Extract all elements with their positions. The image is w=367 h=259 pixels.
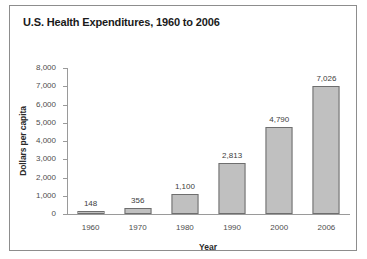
y-axis-tick (63, 159, 67, 160)
y-axis-tick (63, 178, 67, 179)
y-axis-tick-label: 5,000 (36, 119, 56, 127)
chart-figure: U.S. Health Expenditures, 1960 to 2006 0… (9, 5, 357, 251)
x-axis-tick-label: 2000 (270, 224, 288, 232)
bar (313, 86, 340, 214)
y-axis-tick (63, 196, 67, 197)
y-axis-tick-label: 7,000 (36, 82, 56, 90)
bar-value-label: 7,026 (316, 75, 336, 83)
y-axis-tick (63, 68, 67, 69)
x-axis-tick-label: 1960 (82, 224, 100, 232)
x-axis-line (67, 214, 350, 215)
bar-value-label: 1,100 (175, 183, 195, 191)
chart-title: U.S. Health Expenditures, 1960 to 2006 (23, 16, 220, 28)
y-axis-tick (63, 123, 67, 124)
y-axis-tick-label: 8,000 (36, 64, 56, 72)
bar-value-label: 2,813 (222, 152, 242, 160)
y-axis-tick (63, 214, 67, 215)
x-axis-title: Year (199, 242, 217, 252)
bar-value-label: 4,790 (269, 116, 289, 124)
y-axis-tick-label: 3,000 (36, 155, 56, 163)
y-axis-tick-label: 6,000 (36, 101, 56, 109)
x-axis-tick-label: 1980 (176, 224, 194, 232)
bar-value-label: 148 (84, 200, 97, 208)
y-axis-tick-label: 1,000 (36, 192, 56, 200)
plot-area: 01,0002,0003,0004,0005,0006,0007,0008,00… (67, 63, 356, 215)
bar (77, 211, 104, 214)
x-axis-tick-label: 1990 (223, 224, 241, 232)
y-axis-tick-label: 0 (52, 210, 56, 218)
y-axis-tick (63, 86, 67, 87)
y-axis-tick (63, 141, 67, 142)
bar-value-label: 356 (131, 197, 144, 205)
y-axis-title: Dollars per capita (18, 106, 28, 176)
x-axis-tick-label: 1970 (129, 224, 147, 232)
y-axis-line (67, 68, 68, 214)
bar (219, 163, 246, 214)
bar (124, 208, 151, 214)
bar (266, 127, 293, 214)
y-axis-tick (63, 105, 67, 106)
y-axis-tick-label: 4,000 (36, 137, 56, 145)
bar (171, 194, 198, 214)
y-axis-tick-label: 2,000 (36, 174, 56, 182)
x-axis-tick-label: 2006 (318, 224, 336, 232)
